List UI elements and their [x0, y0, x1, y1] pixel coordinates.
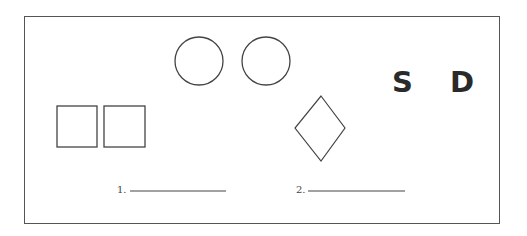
circle-shape [242, 37, 290, 85]
answer-label-1: 1. [117, 185, 127, 195]
answer-label-2: 2. [296, 185, 306, 195]
figure-canvas: S D 1. 2. [0, 0, 527, 236]
shapes-layer [0, 0, 527, 236]
square-shape [104, 106, 145, 147]
letter-d: D [450, 68, 474, 97]
square-shape [57, 106, 97, 147]
circle-shape [175, 37, 223, 85]
diamond-shape [295, 96, 345, 161]
letter-s: S [392, 68, 413, 97]
